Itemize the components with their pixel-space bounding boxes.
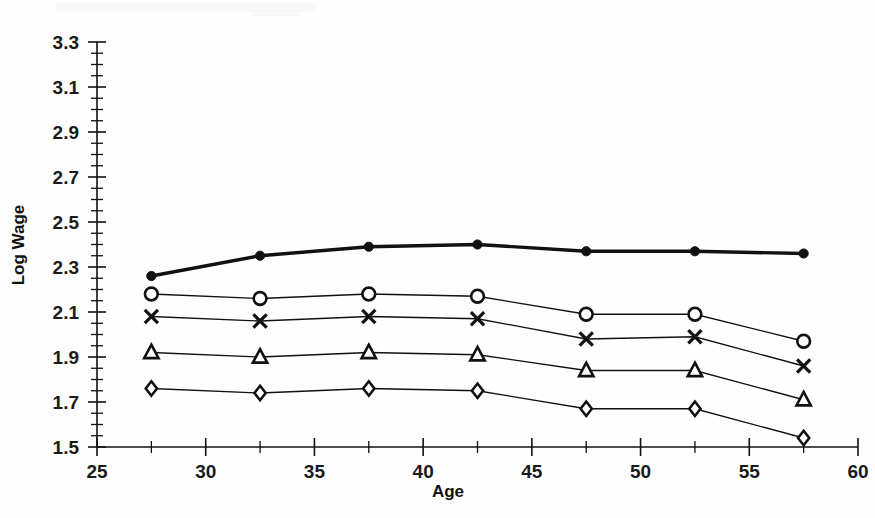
data-point-open-diamond (798, 431, 809, 445)
y-axis-title: Log Wage (9, 205, 28, 286)
y-tick-label: 3.3 (53, 32, 79, 53)
y-tick-label: 3.1 (53, 77, 80, 98)
x-tick-label: 25 (86, 461, 108, 482)
x-tick-label: 45 (521, 461, 543, 482)
data-point-filled-circle (364, 242, 373, 251)
x-axis: 2530354045505560 (86, 438, 868, 482)
series-filled-circle (147, 240, 808, 281)
data-point-open-circle (797, 335, 810, 348)
y-tick-label: 1.7 (53, 392, 79, 413)
data-point-filled-circle (690, 247, 699, 256)
data-point-open-diamond (146, 381, 157, 395)
x-tick-label: 55 (739, 461, 761, 482)
data-point-open-triangle (470, 347, 484, 360)
x-tick-label: 60 (847, 461, 868, 482)
y-tick-label: 2.1 (53, 302, 80, 323)
series-layer (144, 240, 811, 445)
y-tick-label: 1.5 (53, 437, 80, 458)
data-point-open-triangle (579, 363, 593, 376)
data-point-open-circle (362, 288, 375, 301)
data-point-open-triangle (144, 345, 158, 358)
log-wage-age-chart: 1.51.71.92.12.32.52.72.93.13.3 253035404… (0, 0, 875, 518)
data-point-filled-circle (473, 240, 482, 249)
data-point-filled-circle (147, 271, 156, 280)
x-axis-title: Age (432, 482, 464, 501)
x-tick-label: 40 (413, 461, 434, 482)
x-tick-label: 50 (630, 461, 651, 482)
data-point-open-diamond (689, 402, 700, 416)
data-point-open-triangle (253, 349, 267, 362)
data-point-open-diamond (472, 384, 483, 398)
data-point-open-triangle (796, 392, 810, 405)
x-tick-label: 30 (195, 461, 216, 482)
data-point-filled-circle (799, 249, 808, 258)
series-cross (145, 310, 810, 373)
y-tick-label: 2.7 (53, 167, 79, 188)
y-tick-label: 2.9 (53, 122, 79, 143)
data-point-open-triangle (688, 363, 702, 376)
y-axis: 1.51.71.92.12.32.52.72.93.13.3 (53, 32, 106, 458)
y-tick-label: 1.9 (53, 347, 79, 368)
data-point-filled-circle (255, 251, 264, 260)
data-point-cross (797, 359, 810, 372)
chart-page: 1.51.71.92.12.32.52.72.93.13.3 253035404… (0, 0, 875, 518)
data-point-open-circle (580, 308, 593, 321)
data-point-open-diamond (581, 402, 592, 416)
data-point-open-circle (689, 308, 702, 321)
data-point-open-circle (254, 292, 267, 305)
data-point-open-diamond (363, 381, 374, 395)
data-point-open-diamond (254, 386, 265, 400)
data-point-filled-circle (582, 247, 591, 256)
y-tick-label: 2.3 (53, 257, 79, 278)
data-point-open-circle (471, 290, 484, 303)
data-point-open-circle (145, 288, 158, 301)
x-tick-label: 35 (304, 461, 326, 482)
y-tick-label: 2.5 (53, 212, 80, 233)
data-point-open-triangle (362, 345, 376, 358)
series-diamond (146, 381, 810, 445)
